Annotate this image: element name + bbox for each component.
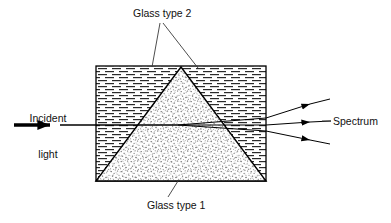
label-incident-light-line-1: Incident	[12, 112, 84, 124]
leader-glass-type-1	[168, 181, 178, 197]
label-incident-light: Incident light	[12, 88, 84, 184]
label-glass-type-2: Glass type 2	[133, 7, 191, 19]
label-spectrum: Spectrum	[333, 115, 378, 127]
leader-glass-type-2-right	[163, 23, 198, 68]
label-incident-light-line-2: light	[12, 148, 84, 160]
diagram-canvas: Glass type 2 Glass type 1 Spectrum Incid…	[0, 0, 391, 223]
leader-glass-type-2-left	[152, 23, 160, 67]
label-glass-type-1: Glass type 1	[147, 199, 205, 211]
